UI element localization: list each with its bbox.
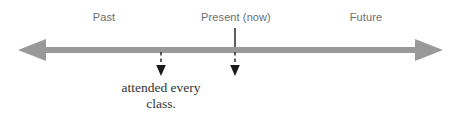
annotation-line-1: attended every	[121, 80, 200, 96]
timeline-figure: Past Present (now) Future attended every…	[0, 0, 464, 115]
timeline-axis-graphic	[0, 0, 464, 115]
dashed-down-arrow-icon-right	[230, 52, 240, 76]
arrow-left-icon	[18, 39, 46, 61]
annotation-line-2: class.	[146, 96, 176, 112]
arrow-right-icon	[415, 39, 443, 61]
dashed-down-arrow-icon-left	[156, 52, 166, 76]
arrow-down-head	[156, 65, 166, 76]
arrow-down-head	[230, 65, 240, 76]
timeline-axis-bar	[40, 47, 423, 53]
timeline-axis	[18, 39, 443, 61]
